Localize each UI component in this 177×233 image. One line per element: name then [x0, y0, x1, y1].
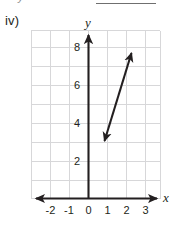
y-tick-label: 8 — [74, 41, 80, 53]
y-tick-label: 6 — [74, 79, 80, 91]
y-tick-label: 2 — [74, 155, 80, 167]
y-tick-label: 4 — [74, 117, 80, 129]
x-tick-label: -1 — [64, 204, 74, 216]
x-tick-label: 2 — [123, 204, 129, 216]
x-tick-label: 0 — [85, 204, 91, 216]
graph-svg: -2 -1 0 1 2 3 2 4 6 8 y x — [0, 0, 177, 233]
x-tick-label: 3 — [142, 204, 148, 216]
x-axis-label: x — [162, 190, 169, 205]
y-axis-label: y — [83, 15, 91, 30]
x-axis-tick-labels: -2 -1 0 1 2 3 — [46, 204, 149, 216]
x-tick-label: 1 — [104, 204, 110, 216]
grid-vertical-lines — [32, 31, 161, 199]
coordinate-graph: -2 -1 0 1 2 3 2 4 6 8 y x — [0, 0, 177, 233]
x-tick-label: -2 — [46, 204, 56, 216]
